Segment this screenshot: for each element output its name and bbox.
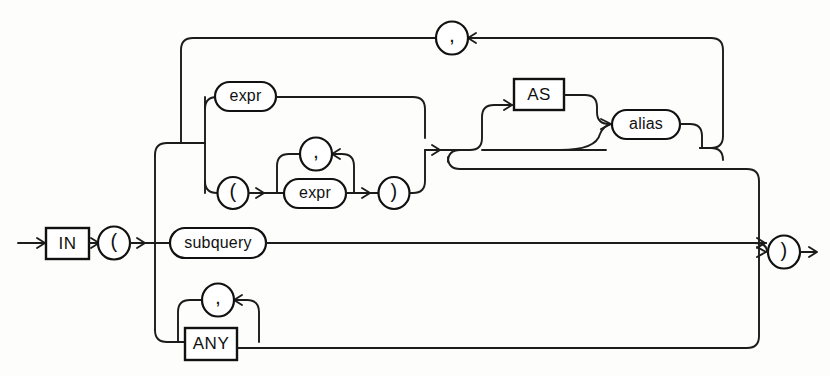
inner-open-paren-label: (: [230, 180, 237, 202]
as-to-alias-rail: [564, 95, 612, 124]
expr-list-result-rail: [700, 169, 759, 243]
node-any-keyword: ANY: [185, 328, 237, 360]
branch-to-any-rail: [155, 330, 185, 342]
any-output-rail: [237, 243, 759, 348]
expr-inner-to-close-rail-group: [346, 188, 378, 198]
paren-expr-group-output-rail: [410, 150, 425, 193]
comma-inner-label: ,: [313, 139, 319, 162]
inner-paren-to-expr-rail-group: [249, 188, 284, 198]
node-expr-inner: expr: [284, 179, 346, 208]
exit-rail-group: [800, 247, 817, 257]
item-exit-join-rail: [700, 148, 723, 160]
paren-to-junction-rail-group: [130, 238, 155, 248]
node-alias: alias: [612, 110, 680, 139]
subquery-label: subquery: [184, 234, 251, 251]
node-close-paren: ): [768, 236, 800, 269]
node-comma-top: ,: [436, 22, 468, 55]
in-keyword-label: IN: [59, 234, 77, 253]
node-comma-inner: ,: [300, 138, 332, 171]
node-inner-close-paren: ): [379, 177, 410, 209]
inner-close-paren-label: ): [391, 180, 398, 202]
subquery-to-close-paren-rail: [266, 243, 768, 252]
node-subquery: subquery: [170, 228, 266, 258]
expr-inner-label: expr: [299, 184, 331, 201]
node-comma-any: ,: [202, 284, 234, 317]
railroad-diagram-canvas: IN ( ,: [0, 0, 830, 376]
comma-any-label: ,: [215, 285, 221, 308]
expr-top-output-rail: [276, 97, 425, 138]
alias-bypass-rail: [448, 150, 700, 169]
alias-output-rail: [680, 124, 702, 148]
node-in-keyword: IN: [46, 228, 89, 259]
close-paren-label: ): [781, 239, 788, 261]
branch-to-expr-group-rail: [155, 143, 193, 155]
node-as-keyword: AS: [514, 79, 564, 110]
open-paren-label: (: [111, 230, 118, 252]
node-inner-open-paren: (: [218, 177, 249, 209]
as-keyword-label: AS: [527, 85, 551, 104]
railroad-diagram: IN ( ,: [0, 0, 830, 376]
to-as-keyword-rail: [460, 105, 512, 150]
comma-top-label: ,: [449, 23, 455, 46]
any-keyword-label: ANY: [193, 334, 229, 353]
straight-into-alias-curve: [560, 124, 611, 150]
alias-label: alias: [629, 115, 663, 132]
node-open-paren: (: [98, 227, 130, 260]
entry-rail-group: [18, 238, 45, 248]
top-comma-loop-right-rail: [468, 38, 723, 148]
expr-top-label: expr: [230, 87, 262, 104]
node-expr-top: expr: [215, 82, 276, 111]
